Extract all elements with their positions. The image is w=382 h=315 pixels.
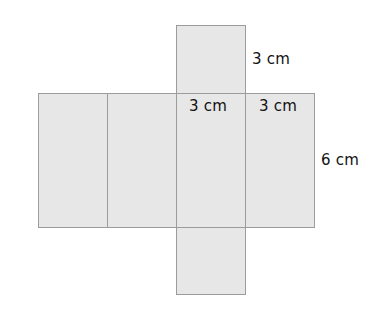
top-square-dimension-label: 3 cm	[252, 51, 290, 67]
top-square-face	[176, 25, 246, 94]
side-face-width-label: 3 cm	[259, 98, 297, 114]
fold-line-3	[245, 93, 246, 228]
bottom-square-face	[176, 227, 246, 295]
front-face-width-label: 3 cm	[189, 98, 227, 114]
fold-line-2	[176, 93, 177, 228]
fold-line-1	[107, 93, 108, 228]
height-dimension-label: 6 cm	[321, 152, 359, 168]
